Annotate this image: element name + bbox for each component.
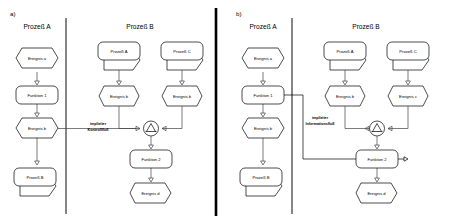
- panel-a-column-title-right: Prozeß B: [126, 23, 154, 30]
- panel-a-branch-event-left: Ereignis b: [99, 86, 139, 106]
- panel-b-process-prozess-b: Prozeß B: [240, 168, 282, 196]
- panel-a-process-prozess-b-label: Prozeß B: [26, 175, 43, 180]
- panel-b-branch-event-right-label: Ereignis c: [399, 94, 417, 99]
- panel-b-branch-event-left-label: Ereignis b: [336, 94, 355, 99]
- panel-b-branch-event-left: Ereignis b: [325, 86, 365, 106]
- panel-b-letter: b): [236, 10, 242, 17]
- panel-a-branch-flow-lines: [117, 70, 185, 85]
- panel-b-event-ereignis-d: Ereignis d: [356, 183, 397, 203]
- panel-a-function-funktion-1-label: Funktion 1: [27, 93, 47, 98]
- panel-b-column-title-right: Prozeß B: [352, 23, 380, 30]
- panel-b-event-ereignis-a-label: Ereignis a: [254, 56, 273, 61]
- panel-a-annotation-line-2: Kontrollfluß: [88, 128, 110, 132]
- panel-b-column-title-left: Prozeß A: [249, 23, 277, 30]
- panel-a-process-prozess-c-label: Prozeß C: [173, 49, 190, 54]
- panel-a-xor-connector: [144, 121, 159, 136]
- panel-a-event-ereignis-b: Ereignis b: [16, 118, 58, 138]
- panel-a-branch-event-left-label: Ereignis b: [110, 94, 129, 99]
- epk-figure-root: a) Prozeß A Prozeß B Ereignis a: [0, 0, 450, 224]
- panel-b-event-ereignis-b: Ereignis b: [242, 118, 284, 138]
- panel-a-annotation-implicit-controlflow: impliziter Kontrollfluß: [88, 122, 110, 132]
- panel-b-process-prozess-a-label: Prozeß A: [337, 49, 354, 54]
- panel-a-function-funktion-2-label: Funktion 2: [141, 157, 161, 162]
- panel-a-process-prozess-c: Prozeß C: [161, 42, 203, 70]
- panel-a-branch-event-right: Ereignis b: [162, 86, 202, 106]
- panel-a-column-title-left: Prozeß A: [23, 23, 51, 30]
- panel-b-function-funktion-1: Funktion 1: [242, 86, 284, 104]
- panel-b-process-prozess-c-label: Prozeß C: [399, 49, 416, 54]
- panel-a: a) Prozeß A Prozeß B Ereignis a: [10, 10, 203, 214]
- panel-b: b) Prozeß A Prozeß B Ereignis a: [236, 10, 429, 214]
- panel-b-function-funktion-2: Funktion 2: [356, 150, 398, 168]
- epk-diagram-canvas: a) Prozeß A Prozeß B Ereignis a: [0, 0, 450, 224]
- panel-a-event-ereignis-d: Ereignis d: [130, 183, 171, 203]
- panel-a-function-funktion-1: Funktion 1: [16, 86, 58, 104]
- panel-b-event-ereignis-b-label: Ereignis b: [254, 126, 273, 131]
- panel-a-annotation-line-1: impliziter: [90, 122, 107, 126]
- panel-a-process-prozess-a-label: Prozeß A: [111, 49, 128, 54]
- panel-b-process-prozess-a: Prozeß A: [324, 42, 366, 70]
- panel-b-annotation-implicit-informationflow: impliziter Informationsfluß: [305, 116, 335, 126]
- panel-a-branch-event-right-label: Ereignis b: [173, 94, 192, 99]
- panel-b-event-ereignis-a: Ereignis a: [242, 48, 284, 68]
- panel-a-process-prozess-a: Prozeß A: [98, 42, 140, 70]
- panel-b-process-prozess-c: Prozeß C: [387, 42, 429, 70]
- panel-b-branch-flow-lines: [343, 70, 411, 85]
- panel-b-xor-connector: [370, 121, 385, 136]
- panel-b-branch-event-right: Ereignis c: [388, 86, 428, 106]
- panel-a-event-ereignis-a: Ereignis a: [16, 48, 58, 68]
- panel-a-letter: a): [10, 10, 16, 17]
- panel-b-annotation-line-2: Informationsfluß: [305, 122, 335, 126]
- panel-b-annotation-line-1: impliziter: [312, 116, 329, 120]
- panel-a-process-prozess-b: Prozeß B: [14, 168, 56, 196]
- panel-a-event-ereignis-a-label: Ereignis a: [28, 56, 47, 61]
- panel-a-event-ereignis-d-label: Ereignis d: [141, 191, 160, 196]
- panel-a-function-funktion-2: Funktion 2: [130, 150, 172, 168]
- panel-b-function-funktion-2-label: Funktion 2: [367, 157, 387, 162]
- panel-b-process-prozess-b-label: Prozeß B: [252, 175, 269, 180]
- panel-b-event-ereignis-d-label: Ereignis d: [367, 191, 386, 196]
- panel-b-function-funktion-1-label: Funktion 1: [253, 93, 273, 98]
- panel-a-event-ereignis-b-label: Ereignis b: [28, 126, 47, 131]
